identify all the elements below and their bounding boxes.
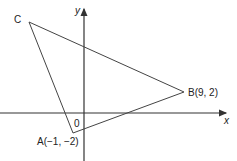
triangle-abc [29,22,184,133]
point-a-label: A(−1, −2) [37,136,79,147]
coordinate-diagram: x y 0 C B(9, 2) A(−1, −2) [0,0,237,161]
x-axis-label: x [223,115,230,126]
origin-label: 0 [74,118,80,129]
y-axis-label: y [74,5,81,16]
point-c-label: C [14,14,21,25]
point-b-label: B(9, 2) [188,87,218,98]
